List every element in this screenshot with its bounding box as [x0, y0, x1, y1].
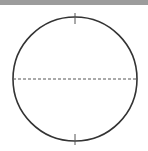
circle-diagram [0, 0, 148, 151]
